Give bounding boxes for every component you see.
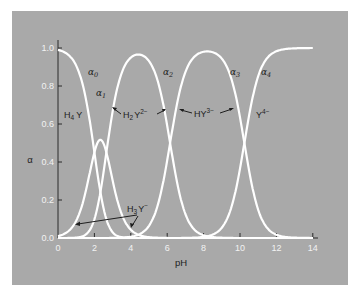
y-tick-label: 1.0: [41, 43, 54, 53]
x-tick-label: 2: [92, 243, 97, 253]
label-alpha0: α0: [88, 67, 98, 79]
y-tick-label: 0.4: [41, 157, 54, 167]
label-alpha1: α1: [96, 88, 106, 100]
x-tick-label: 8: [201, 243, 206, 253]
arrowhead: [179, 109, 184, 112]
y-tick-label: 0.6: [41, 119, 54, 129]
label-alpha2: α2: [163, 67, 173, 79]
curve-α1: [58, 140, 313, 238]
label-h4y: H4Y: [64, 110, 82, 121]
x-tick-label: 6: [165, 243, 170, 253]
label-h2y2: H2Y2−: [123, 108, 148, 121]
label-h3y: H3Y−: [127, 202, 148, 215]
x-tick-label: 14: [308, 243, 318, 253]
y-tick-label: 0.2: [41, 195, 54, 205]
x-tick-label: 4: [128, 243, 133, 253]
y-tick-label: 0.8: [41, 81, 54, 91]
chart-svg: 0.00.20.40.60.81.0 02468101214 pH α α0 α…: [0, 0, 360, 297]
x-tick-label: 10: [235, 243, 245, 253]
label-hy3: HY3−: [194, 107, 214, 119]
x-tick-label: 12: [271, 243, 281, 253]
x-axis-title: pH: [175, 257, 187, 268]
y-ticks: 0.00.20.40.60.81.0: [41, 43, 62, 243]
y-tick-label: 0.0: [41, 233, 54, 243]
label-y4: Y4−: [256, 108, 270, 120]
arrowhead: [229, 108, 234, 111]
y-axis-title: α: [27, 154, 33, 165]
x-tick-label: 0: [55, 243, 60, 253]
label-alpha4: α4: [261, 67, 271, 79]
